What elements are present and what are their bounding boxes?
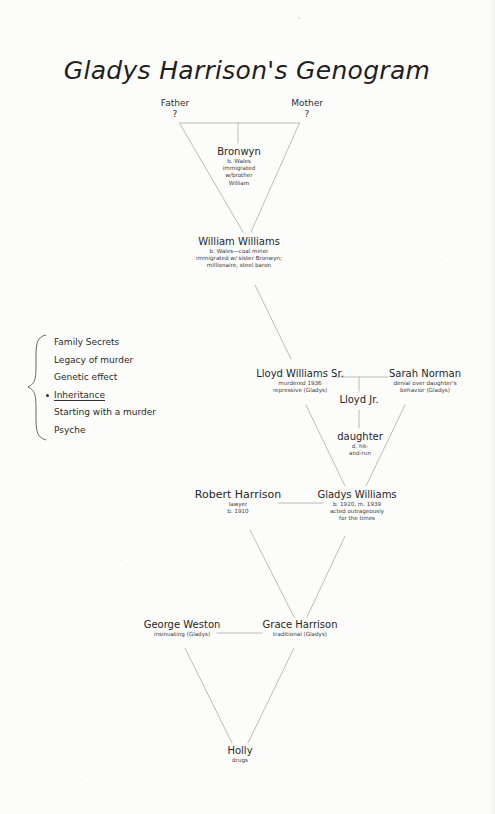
person-note: b. Wales—coal miner (196, 248, 282, 255)
person-gladys-williams[interactable]: Gladys Williams b. 1920, m. 1939 acted o… (317, 489, 396, 523)
parent-line-robert-grace (250, 530, 294, 617)
person-george-weston[interactable]: George Weston insinuating (Gladys) (144, 619, 221, 638)
person-note: for the times (317, 515, 396, 522)
person-name: Gladys Williams (317, 489, 396, 501)
person-note: traditional (Gladys) (263, 631, 338, 638)
descent-line-william-lloyd (255, 285, 291, 359)
person-note: millionaire, steel baron (196, 262, 282, 269)
person-name: Robert Harrison (195, 489, 281, 501)
person-note: b. Wales (217, 158, 261, 165)
person-name: Bronwyn (217, 146, 261, 158)
person-name: Grace Harrison (263, 619, 338, 631)
person-robert-harrison[interactable]: Robert Harrison lawyer b. 1910 (195, 489, 281, 515)
theme-item-legacy-of-murder[interactable]: Legacy of murder (54, 352, 156, 370)
person-note: acted outrageously (317, 508, 396, 515)
theme-label: Legacy of murder (54, 355, 133, 365)
parent-line-gladys-grace (307, 536, 345, 617)
person-lloyd-jr[interactable]: Lloyd Jr. (339, 394, 378, 406)
person-note: denial over daughter's (389, 380, 461, 387)
person-daughter[interactable]: daughter d. hit- and-run (337, 431, 383, 457)
person-note: and-run (337, 450, 383, 457)
theme-item-family-secrets[interactable]: Family Secrets (54, 334, 156, 352)
person-note: William (217, 180, 261, 187)
person-note: repressive (Gladys) (256, 387, 344, 394)
person-note: b. 1920, m. 1939 (317, 501, 396, 508)
person-name: Lloyd Jr. (339, 394, 378, 406)
person-william-williams[interactable]: William Williams b. Wales—coal miner imm… (196, 236, 282, 270)
person-holly[interactable]: Holly drugs (227, 745, 252, 764)
person-sarah-norman[interactable]: Sarah Norman denial over daughter's beha… (389, 368, 461, 394)
theme-label: Starting with a murder (54, 407, 156, 417)
person-note: drugs (227, 757, 252, 764)
person-bronwyn[interactable]: Bronwyn b. Wales immigrated w/brother Wi… (217, 146, 261, 187)
person-name: daughter (337, 431, 383, 443)
person-note: immigrated w/ sister Bronwyn; (196, 255, 282, 262)
person-lloyd-williams-sr[interactable]: Lloyd Williams Sr. murdered 1936 repress… (256, 368, 344, 394)
themes-list: Family Secrets Legacy of murder Genetic … (54, 334, 156, 440)
theme-item-starting-with-a-murder[interactable]: Starting with a murder (54, 404, 156, 422)
theme-label: Genetic effect (54, 372, 117, 382)
person-grace-harrison[interactable]: Grace Harrison traditional (Gladys) (263, 619, 338, 638)
genogram-canvas: Gladys Harrison's Genogram Father ? Moth… (0, 0, 495, 814)
person-note: b. 1910 (195, 508, 281, 515)
person-note: w/brother (217, 172, 261, 179)
theme-item-inheritance[interactable]: Inheritance (54, 387, 156, 405)
father-unknown: ? (161, 109, 189, 120)
themes-brace (28, 335, 46, 440)
father-label: Father (161, 98, 189, 109)
person-name: George Weston (144, 619, 221, 631)
person-name: Lloyd Williams Sr. (256, 368, 344, 380)
person-name: Holly (227, 745, 252, 757)
mother-unknown: ? (291, 109, 323, 120)
theme-label: Psyche (54, 425, 85, 435)
person-note: murdered 1936 (256, 380, 344, 387)
theme-label: Family Secrets (54, 337, 119, 347)
person-note: lawyer (195, 501, 281, 508)
father-node[interactable]: Father ? (161, 98, 189, 120)
person-note: behavior (Gladys) (389, 387, 461, 394)
person-note: insinuating (Gladys) (144, 631, 221, 638)
parent-line-george-holly (185, 648, 232, 743)
page-title: Gladys Harrison's Genogram (64, 56, 430, 85)
bullet-icon (46, 394, 49, 397)
mother-label: Mother (291, 98, 323, 109)
theme-item-psyche[interactable]: Psyche (54, 422, 156, 440)
theme-item-genetic-effect[interactable]: Genetic effect (54, 369, 156, 387)
mother-node[interactable]: Mother ? (291, 98, 323, 120)
parent-line-grace-holly (248, 648, 294, 743)
theme-label: Inheritance (54, 390, 105, 401)
person-name: William Williams (196, 236, 282, 248)
person-note: d. hit- (337, 443, 383, 450)
person-note: immigrated (217, 165, 261, 172)
person-name: Sarah Norman (389, 368, 461, 380)
